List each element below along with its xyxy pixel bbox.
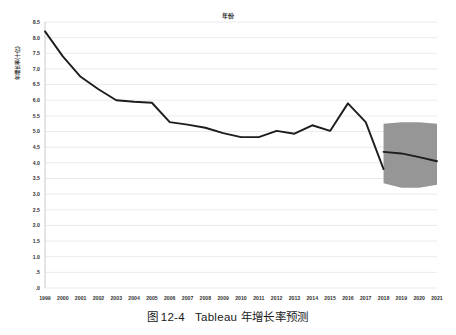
- x-tick-label: 2002: [93, 295, 105, 301]
- chart-area: 年份 年增长率(十亿) 8.58.07.57.06.56.05.55.04.54…: [0, 0, 456, 305]
- y-tick-label: 2.0: [33, 222, 40, 228]
- x-tick-label: 2009: [217, 295, 229, 301]
- y-tick-label: 1.0: [33, 254, 40, 260]
- y-tick-label: 8.5: [33, 19, 40, 25]
- x-tick-label: 2008: [200, 295, 212, 301]
- x-tick-label: 1999: [39, 295, 51, 301]
- y-tick-label: 4.0: [33, 160, 40, 166]
- x-tick-label: 2019: [396, 295, 408, 301]
- x-tick-label: 2017: [360, 295, 372, 301]
- y-tick-label: 5.0: [33, 128, 40, 134]
- y-tick-label: 5.5: [33, 113, 40, 119]
- y-tick-label: 7.0: [33, 66, 40, 72]
- x-tick-label: 2006: [164, 295, 176, 301]
- y-tick-label: 4.5: [33, 144, 40, 150]
- x-tick-label: 2021: [431, 295, 443, 301]
- x-tick-label: 2007: [182, 295, 194, 301]
- y-tick-label: 3.5: [33, 175, 40, 181]
- y-tick-label: 1.5: [33, 238, 40, 244]
- figure-caption: 图12-4Tableau 年增长率预测: [0, 308, 456, 324]
- y-tick-label: 6.0: [33, 97, 40, 103]
- figure-container: 年份 年增长率(十亿) 8.58.07.57.06.56.05.55.04.54…: [0, 0, 456, 335]
- caption-number: 12-4: [161, 311, 185, 323]
- x-tick-labels-group: 1999200020012002200320042005200620072008…: [39, 295, 443, 301]
- x-tick-label: 2003: [110, 295, 122, 301]
- x-tick-label: 2020: [413, 295, 425, 301]
- x-tick-label: 2018: [378, 295, 390, 301]
- y-tick-label: .5: [36, 269, 40, 275]
- x-tick-label: 2004: [128, 295, 140, 301]
- x-tick-label: 2012: [271, 295, 283, 301]
- x-tick-label: 2011: [253, 295, 264, 301]
- x-tick-label: 2016: [342, 295, 354, 301]
- x-tick-label: 2005: [146, 295, 158, 301]
- caption-text: Tableau 年增长率预测: [195, 311, 309, 323]
- x-tick-label: 2013: [289, 295, 301, 301]
- y-tick-label: 3.0: [33, 191, 40, 197]
- y-tick-label: 8.0: [33, 35, 40, 41]
- plot-svg: 8.58.07.57.06.56.05.55.04.54.03.53.02.52…: [0, 0, 456, 305]
- y-tick-labels-group: 8.58.07.57.06.56.05.55.04.54.03.53.02.52…: [33, 19, 40, 291]
- y-tick-label: 2.5: [33, 207, 40, 213]
- y-tick-label: 6.5: [33, 81, 40, 87]
- x-tick-label: 2001: [75, 295, 87, 301]
- x-tick-label: 2010: [235, 295, 247, 301]
- y-tick-label: .0: [36, 285, 40, 291]
- x-tick-label: 2015: [324, 295, 336, 301]
- y-tick-label: 7.5: [33, 50, 40, 56]
- x-tick-label: 2014: [306, 295, 318, 301]
- x-tick-label: 2000: [57, 295, 69, 301]
- caption-label: 图: [147, 311, 158, 323]
